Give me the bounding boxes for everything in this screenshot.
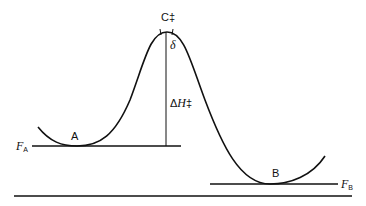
enthalpy-label: ΔH‡ bbox=[170, 96, 192, 110]
level-a-label: FA bbox=[15, 139, 28, 153]
state-b-label: B bbox=[272, 167, 279, 179]
level-b-label: FB bbox=[340, 177, 353, 191]
transition-state-label: C‡ bbox=[161, 11, 175, 23]
delta-label: δ bbox=[170, 38, 176, 52]
energy-diagram: C‡ δ ΔH‡ A B FA FB bbox=[0, 0, 366, 206]
state-a-label: A bbox=[71, 130, 79, 142]
